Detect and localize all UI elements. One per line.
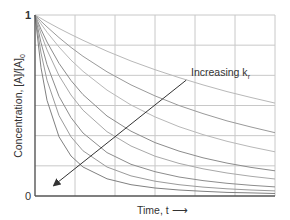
- y-label-main: Concentration, [A]/[A]: [12, 58, 24, 158]
- annotation-label: Increasing kr: [191, 66, 251, 80]
- y-tick-max: 1: [25, 9, 31, 21]
- svg-text:Concentration, [A]/[A]0: Concentration, [A]/[A]0: [12, 54, 26, 158]
- y-axis-label: Concentration, [A]/[A]0: [12, 54, 26, 158]
- y-tick-min: 0: [25, 190, 31, 202]
- decay-chart: 1 0 Concentration, [A]/[A]0 Time, t⟶ Inc…: [0, 0, 290, 220]
- increasing-k-arrow-icon: [54, 80, 186, 185]
- y-label-sub: 0: [19, 54, 26, 58]
- x-axis-arrow-icon: ⟶: [172, 204, 188, 216]
- x-axis-label: Time, t⟶: [137, 204, 188, 216]
